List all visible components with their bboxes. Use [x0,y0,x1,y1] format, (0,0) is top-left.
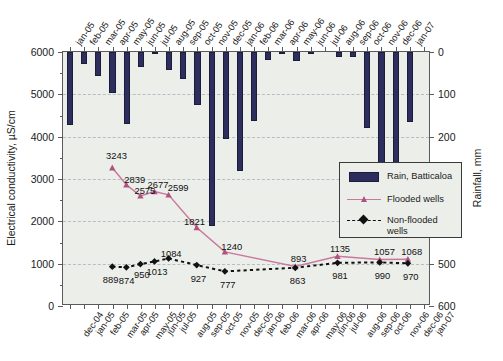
x-axis-tick [410,304,411,309]
flooded-value-label: 2677 [148,179,169,190]
nonflooded-value-label: 990 [375,270,391,281]
x-axis-tick [240,304,241,309]
y-axis-minor-tick [60,243,63,244]
x-axis-tick-top [240,47,241,52]
x-axis-tick-top [268,47,269,52]
legend-label: Rain, Batticaloa [387,171,452,182]
flooded-value-label: 2839 [124,174,145,185]
x-axis-tick [169,304,170,309]
secondary-y-axis-tick [429,52,434,53]
x-axis-tick [311,304,312,309]
dashed-marker-icon [347,215,381,227]
x-axis-tick-top [183,47,184,52]
secondary-y-axis-title: Rainfall, mm [470,51,484,305]
nonflooded-marker [137,261,144,268]
x-axis-tick [353,304,354,309]
x-axis-tick [339,304,340,309]
x-axis-tick-top [98,47,99,52]
y-axis-tick [58,94,63,95]
flooded-marker [109,165,115,171]
x-axis-tick [70,304,71,309]
x-axis-tick-top [424,47,425,52]
x-axis-tick [297,304,298,309]
y-axis-minor-tick [60,73,63,74]
x-axis-tick [197,304,198,309]
secondary-y-axis-tick [429,137,434,138]
legend-item-nonflooded: Non-flooded wells [347,215,457,236]
x-axis-tick [424,304,425,309]
chart-figure: Electrical conductivity, µS/cm Rainfall,… [0,0,503,361]
x-axis-tick [282,304,283,309]
x-axis-tick-top [325,47,326,52]
y-axis-tick-label: 3000 [31,173,54,185]
y-axis-minor-tick [60,200,63,201]
nonflooded-marker [123,264,130,271]
y-axis-tick-label: 0 [48,300,54,312]
x-axis-tick-top [311,47,312,52]
flooded-value-label: 2599 [168,182,189,193]
y-axis-minor-tick [60,116,63,117]
secondary-y-axis-tick-label: 500 [438,258,456,270]
nonflooded-value-label: 981 [332,270,348,281]
nonflooded-marker [151,258,158,265]
plot-area: 0100020003000400050006000010020030040050… [62,51,430,305]
x-axis-tick-top [410,47,411,52]
x-axis-tick [98,304,99,309]
y-axis-tick-label: 5000 [31,88,54,100]
nonflooded-value-label: 970 [403,271,419,282]
flooded-value-label: 893 [291,253,307,264]
y-axis-tick [58,221,63,222]
x-axis-tick-top [353,47,354,52]
x-axis-tick [367,304,368,309]
y-axis-tick-label: 1000 [31,258,54,270]
legend-item-rain: Rain, Batticaloa [347,171,452,183]
x-axis-tick-top [282,47,283,52]
y-axis-tick [58,52,63,53]
y-axis-tick [58,179,63,180]
y-axis-minor-tick [60,158,63,159]
chart-legend: Rain, Batticaloa Flooded wells Non-flood… [339,162,462,238]
x-axis-tick-top [339,47,340,52]
line-marker-icon [347,194,381,206]
x-axis-tick-top [127,47,128,52]
x-axis-tick-top [113,47,114,52]
x-axis-tick [113,304,114,309]
x-axis-tick-top [396,47,397,52]
x-axis-tick-top [155,47,156,52]
nonflooded-value-label: 863 [290,275,306,286]
x-axis-tick-top [381,47,382,52]
y-axis-minor-tick [60,285,63,286]
y-axis-tick-label: 4000 [31,131,54,143]
x-axis-tick [396,304,397,309]
y-axis-tick [58,264,63,265]
x-axis-tick-top [84,47,85,52]
secondary-y-axis-tick [429,264,434,265]
secondary-y-axis-tick [429,306,434,307]
y-axis-tick-label: 2000 [31,215,54,227]
x-axis-tick [325,304,326,309]
x-axis-tick [254,304,255,309]
legend-label: Non-flooded wells [387,215,449,236]
secondary-y-axis-tick-label: 0 [438,46,444,58]
x-axis-tick [268,304,269,309]
y-axis-tick [58,306,63,307]
x-axis-tick [127,304,128,309]
x-axis-tick-top [141,47,142,52]
x-axis-tick-top [297,47,298,52]
x-axis-tick [381,304,382,309]
x-axis-tick [212,304,213,309]
x-axis-tick-top [70,47,71,52]
x-axis-tick-top [212,47,213,52]
nonflooded-marker [193,262,200,269]
x-axis-tick [141,304,142,309]
nonflooded-value-label: 874 [119,275,135,286]
y-axis-title: Electrical conductivity, µS/cm [4,51,18,305]
nonflooded-value-label: 927 [191,273,207,284]
x-axis-tick [183,304,184,309]
legend-item-flooded: Flooded wells [347,194,444,206]
bar-swatch-icon [347,171,381,183]
flooded-value-label: 1068 [401,246,422,257]
flooded-value-label: 1135 [330,243,350,254]
secondary-y-axis-tick [429,94,434,95]
x-axis-tick-top [254,47,255,52]
